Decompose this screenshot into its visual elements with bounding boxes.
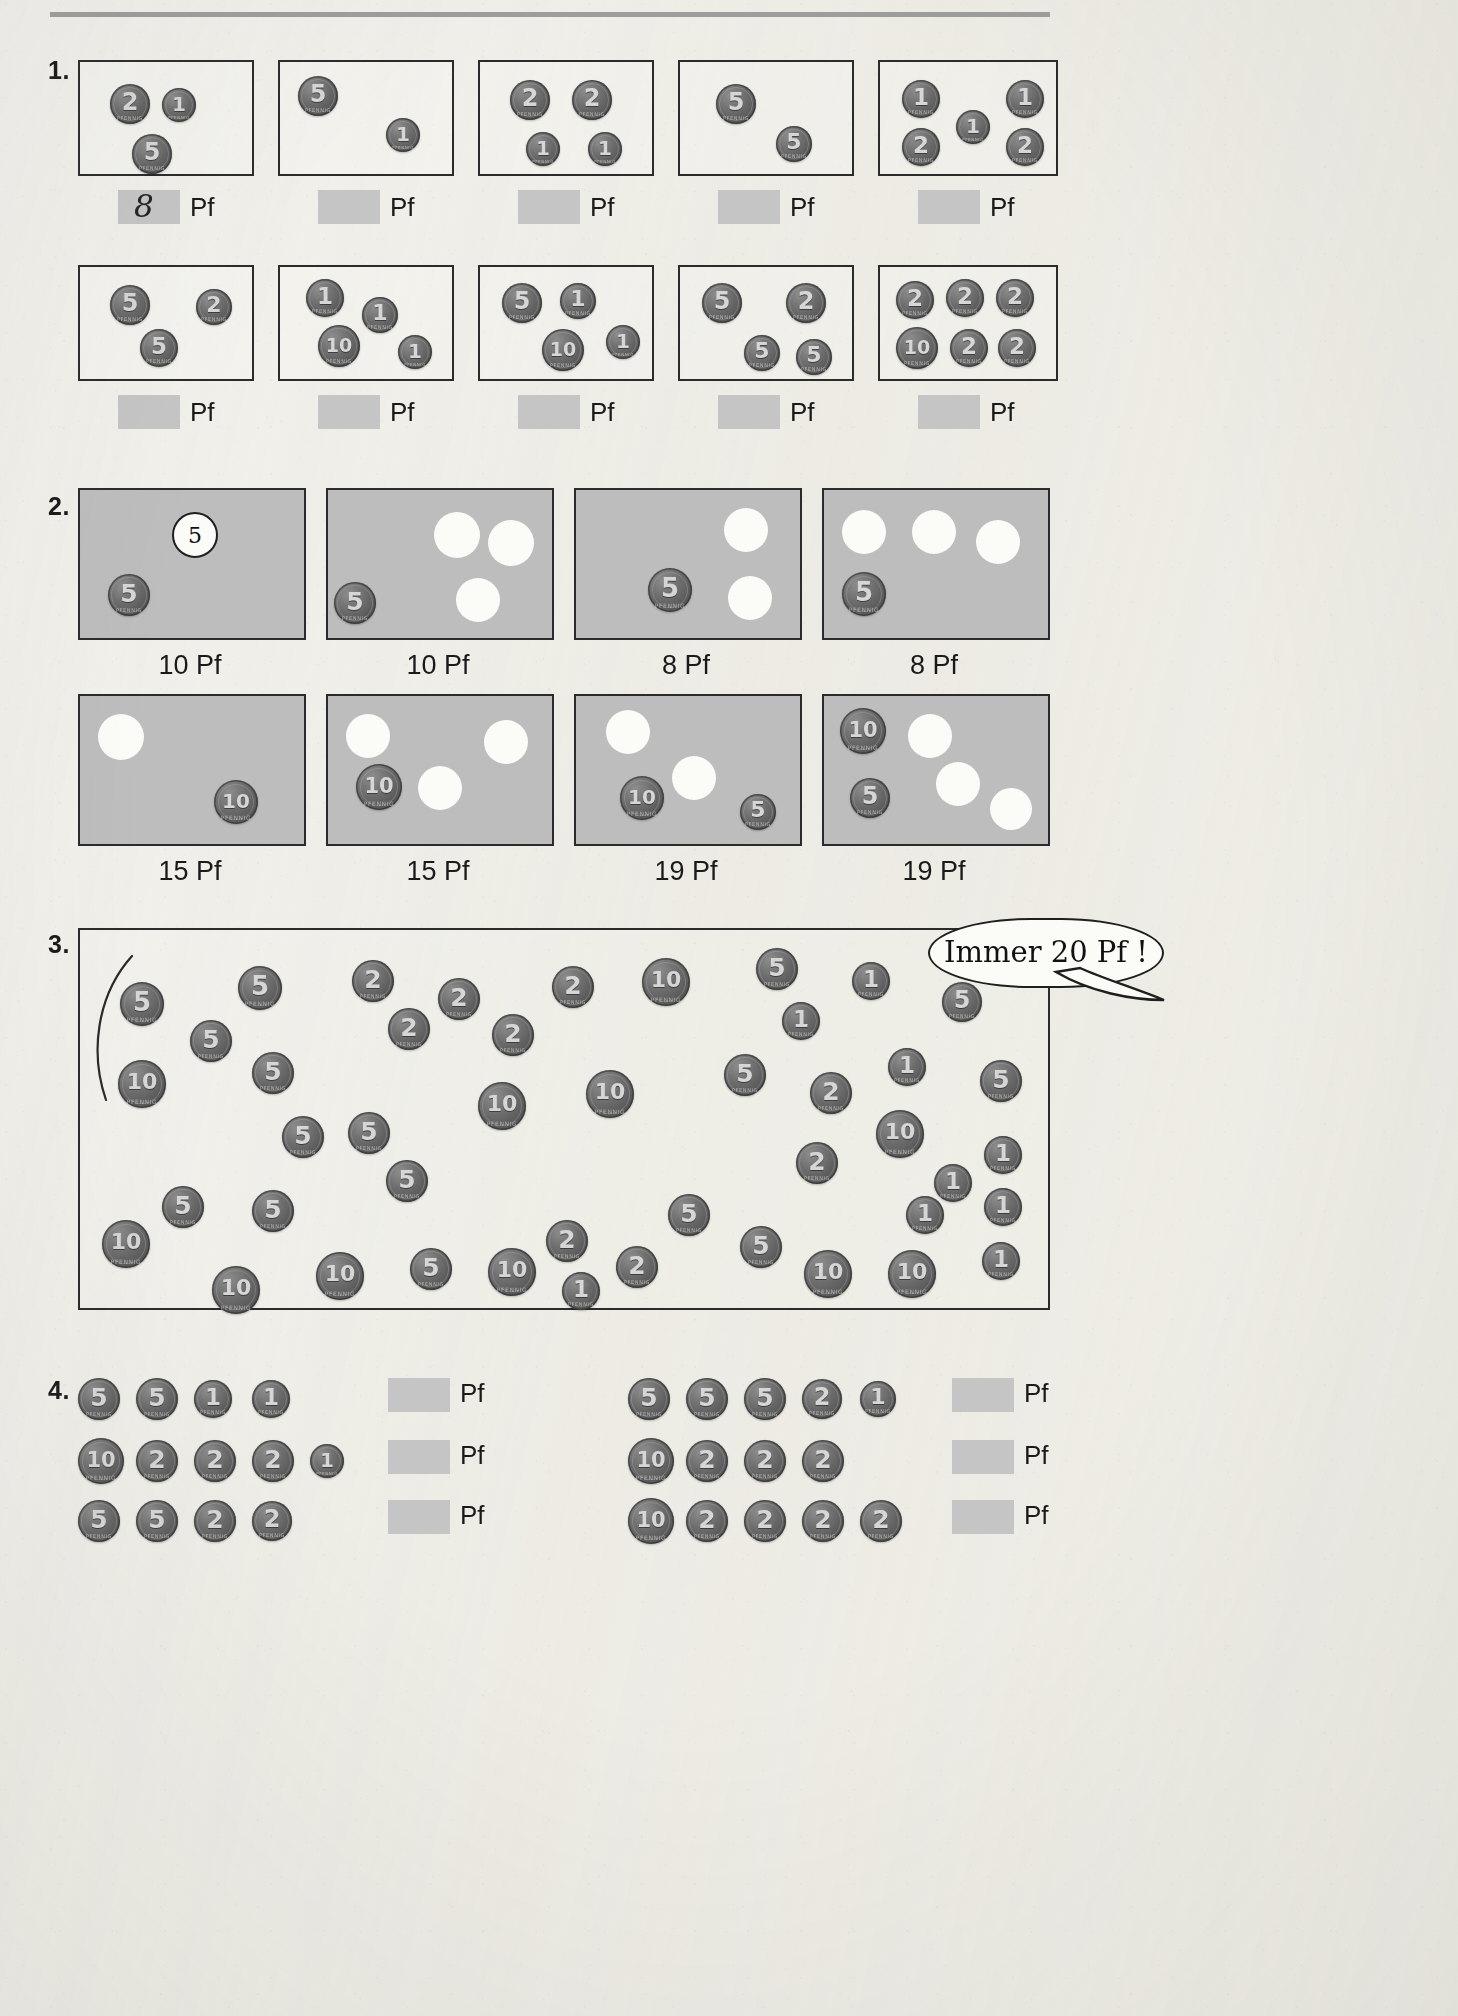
coin-1-pfennig: 1PFENNIG xyxy=(386,118,420,152)
coin-10-pfennig: 10PFENNIG xyxy=(316,1252,364,1300)
pf-unit-label: Pf xyxy=(1024,1378,1049,1409)
coin-10-pfennig: 10PFENNIG xyxy=(356,764,402,810)
coin-value-label: 2 xyxy=(698,1447,715,1472)
answer-swatch[interactable] xyxy=(918,190,980,224)
coin-pfennig-legend: PFENNIG xyxy=(686,1533,728,1539)
blank-coin-circle[interactable] xyxy=(456,578,500,622)
coin-value-label: 2 xyxy=(400,1015,417,1040)
blank-coin-circle[interactable] xyxy=(976,520,1020,564)
coin-value-label: 2 xyxy=(798,289,815,313)
blank-coin-circle[interactable] xyxy=(728,576,772,620)
coin-pfennig-legend: PFENNIG xyxy=(136,1533,178,1539)
coin-1-pfennig: 1PFENNIG xyxy=(888,1048,926,1086)
coin-5-pfennig: 5PFENNIG xyxy=(282,1116,324,1158)
coin-5-pfennig: 5PFENNIG xyxy=(136,1378,178,1420)
coin-2-pfennig: 2PFENNIG xyxy=(744,1500,786,1542)
coin-pfennig-legend: PFENNIG xyxy=(628,1474,674,1481)
coin-pfennig-legend: PFENNIG xyxy=(488,1286,536,1293)
coin-value-label: 10 xyxy=(487,1093,518,1115)
blank-coin-circle[interactable] xyxy=(606,710,650,754)
answer-swatch[interactable] xyxy=(918,395,980,429)
blank-coin-circle[interactable] xyxy=(488,520,534,566)
coin-pfennig-legend: PFENNIG xyxy=(796,366,832,372)
blank-coin-circle[interactable] xyxy=(484,720,528,764)
coin-10-pfennig: 10PFENNIG xyxy=(876,1110,924,1158)
coin-5-pfennig: 5PFENNIG xyxy=(796,339,832,375)
blank-coin-circle[interactable] xyxy=(724,508,768,552)
coin-5-pfennig: 5PFENNIG xyxy=(78,1500,120,1542)
blank-coin-circle[interactable] xyxy=(672,756,716,800)
answer-swatch[interactable] xyxy=(952,1500,1014,1534)
answer-swatch[interactable] xyxy=(118,395,180,429)
coin-pfennig-legend: PFENNIG xyxy=(616,1279,658,1285)
coin-value-label: 1 xyxy=(598,138,612,158)
box-total-caption: 8 Pf xyxy=(574,650,798,681)
coin-value-label: 5 xyxy=(786,131,801,153)
blank-coin-circle[interactable] xyxy=(990,788,1032,830)
coin-pfennig-legend: PFENNIG xyxy=(282,1149,324,1155)
coin-1-pfennig: 1PFENNIG xyxy=(902,80,940,118)
coin-value-label: 1 xyxy=(995,1194,1011,1217)
blank-coin-circle[interactable] xyxy=(842,510,886,554)
coin-5-pfennig: 5PFENNIG xyxy=(348,1112,390,1154)
coin-value-label: 1 xyxy=(570,288,585,310)
coin-pfennig-legend: PFENNIG xyxy=(386,145,420,150)
coin-pfennig-legend: PFENNIG xyxy=(620,810,664,817)
coin-pfennig-legend: PFENNIG xyxy=(996,308,1034,314)
coin-value-label: 1 xyxy=(966,116,980,136)
blank-coin-circle[interactable] xyxy=(434,512,480,558)
coin-value-label: 2 xyxy=(1009,335,1025,358)
coin-5-pfennig: 5PFENNIG xyxy=(756,948,798,990)
box-total-caption: 10 Pf xyxy=(78,650,302,681)
blank-coin-circle[interactable] xyxy=(418,766,462,810)
blank-coin-circle[interactable] xyxy=(346,714,390,758)
coin-value-label: 2 xyxy=(364,967,381,992)
coin-pfennig-legend: PFENNIG xyxy=(888,1288,936,1295)
answer-swatch[interactable] xyxy=(952,1440,1014,1474)
coin-value-label: 5 xyxy=(122,291,139,315)
answer-swatch[interactable] xyxy=(518,395,580,429)
coin-5-pfennig: 5PFENNIG xyxy=(298,76,338,116)
coin-pfennig-legend: PFENNIG xyxy=(78,1533,120,1539)
coin-2-pfennig: 2PFENNIG xyxy=(802,1440,844,1482)
coin-value-label: 1 xyxy=(917,1202,933,1225)
coin-value-label: 5 xyxy=(151,335,167,358)
coin-value-label: 2 xyxy=(264,1447,281,1472)
answer-swatch[interactable] xyxy=(318,190,380,224)
box-total-caption: 15 Pf xyxy=(326,856,550,887)
answer-swatch[interactable] xyxy=(718,190,780,224)
coin-pfennig-legend: PFENNIG xyxy=(252,1223,294,1229)
coin-pfennig-legend: PFENNIG xyxy=(252,1409,290,1415)
answer-swatch[interactable] xyxy=(518,190,580,224)
coin-pfennig-legend: PFENNIG xyxy=(782,1031,820,1037)
coin-5-pfennig: 5PFENNIG xyxy=(162,1186,204,1228)
blank-coin-circle[interactable] xyxy=(936,762,980,806)
coin-value-label: 5 xyxy=(680,1201,697,1226)
pf-unit-label: Pf xyxy=(460,1440,485,1471)
box-total-caption: 10 Pf xyxy=(326,650,550,681)
coin-10-pfennig: 10PFENNIG xyxy=(214,780,258,824)
coin-pfennig-legend: PFENNIG xyxy=(740,821,776,827)
coin-value-label: 1 xyxy=(899,1054,915,1077)
coin-10-pfennig: 10PFENNIG xyxy=(642,958,690,1006)
coin-5-pfennig: 5PFENNIG xyxy=(740,794,776,830)
coin-10-pfennig: 10PFENNIG xyxy=(896,327,938,369)
coin-value-label: 1 xyxy=(408,341,422,361)
answer-swatch[interactable] xyxy=(388,1440,450,1474)
answer-swatch[interactable] xyxy=(318,395,380,429)
pf-unit-label: Pf xyxy=(790,397,815,428)
answer-swatch[interactable] xyxy=(718,395,780,429)
coin-1-pfennig: 1PFENNIG xyxy=(860,1381,896,1417)
coin-1-pfennig: 1PFENNIG xyxy=(984,1136,1022,1174)
coin-5-pfennig: 5PFENNIG xyxy=(78,1378,120,1420)
coin-pfennig-legend: PFENNIG xyxy=(136,1411,178,1417)
answer-swatch[interactable] xyxy=(388,1500,450,1534)
answer-swatch[interactable] xyxy=(952,1378,1014,1412)
blank-coin-circle[interactable] xyxy=(98,714,144,760)
blank-coin-circle[interactable] xyxy=(908,714,952,758)
coin-10-pfennig: 10PFENNIG xyxy=(628,1438,674,1484)
coin-value-label: 5 xyxy=(768,955,785,980)
coin-5-pfennig: 5PFENNIG xyxy=(776,126,812,162)
blank-coin-circle[interactable] xyxy=(912,510,956,554)
answer-swatch[interactable] xyxy=(388,1378,450,1412)
